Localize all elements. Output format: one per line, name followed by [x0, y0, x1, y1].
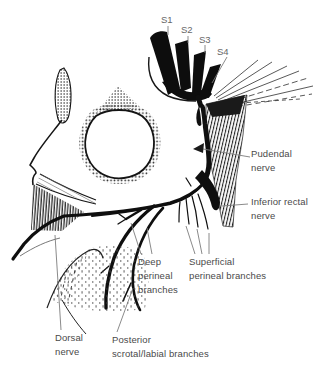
leader-superficial-1 [186, 226, 195, 254]
leader-superficial-2 [197, 229, 202, 254]
label-posterior-scrotal-labial-branches: Posterior scrotal/labial branches [112, 333, 209, 361]
label-s3: S3 [199, 35, 211, 45]
thigh-soft-tissue [20, 238, 148, 334]
label-s1: S1 [161, 15, 173, 25]
label-superficial-perineal-branches: Superficial perineal branches [189, 255, 266, 283]
label-dorsal-nerve: Dorsal nerve [55, 331, 83, 359]
label-pudendal-nerve: Pudendal nerve [251, 147, 292, 175]
ischial-spine [55, 68, 71, 123]
label-deep-perineal-branches: Deep perineal branches [138, 255, 178, 297]
ligament-dark-cap [206, 95, 245, 117]
label-inferior-rectal-nerve: Inferior rectal nerve [251, 195, 308, 223]
label-s4: S4 [217, 47, 229, 57]
diagram-drawing [0, 0, 321, 374]
obturator-foramen [79, 86, 160, 184]
pudendal-arrowhead [193, 143, 204, 153]
sacrotuberous-ligament [206, 95, 247, 227]
label-s2: S2 [181, 25, 193, 35]
anatomy-figure: S1 S2 S3 S4 Pudendal nerve Inferior rect… [0, 0, 321, 374]
pelvic-profile [30, 120, 62, 185]
leader-deep-2 [147, 228, 152, 254]
